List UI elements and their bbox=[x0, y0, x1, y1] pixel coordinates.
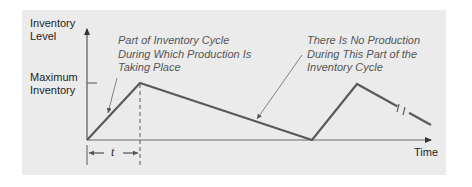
axis-break-icon bbox=[397, 104, 409, 115]
no-production-annotation-line-3: Inventory Cycle bbox=[307, 61, 420, 75]
y-axis-label: Inventory Level bbox=[30, 17, 75, 43]
max-inventory-label: Maximum Inventory bbox=[30, 71, 78, 97]
no-production-annotation-line-1: There Is No Production bbox=[307, 34, 420, 48]
x-axis-label: Time bbox=[414, 146, 438, 159]
y-axis-label-line-2: Level bbox=[30, 30, 75, 43]
y-axis-label-line-1: Inventory bbox=[30, 17, 75, 30]
max-inventory-label-line-1: Maximum bbox=[30, 71, 78, 84]
no-production-annotation-line-2: During This Part of the bbox=[307, 48, 420, 62]
production-annotation-line-1: Part of Inventory Cycle bbox=[118, 34, 251, 48]
inventory-level-line bbox=[87, 83, 431, 140]
no-production-annotation: There Is No Production During This Part … bbox=[307, 34, 420, 75]
max-inventory-label-line-2: Inventory bbox=[30, 84, 78, 97]
production-annotation: Part of Inventory Cycle During Which Pro… bbox=[118, 34, 251, 75]
no-production-leader-line bbox=[257, 55, 302, 119]
production-annotation-line-2: During Which Production Is bbox=[118, 48, 251, 62]
t-label: t bbox=[111, 146, 114, 159]
production-annotation-line-3: Taking Place bbox=[118, 61, 251, 75]
